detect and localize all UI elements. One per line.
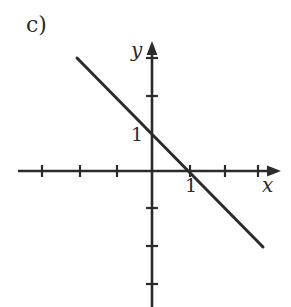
figure-panel: c) y x 1 1	[0, 0, 291, 307]
y-axis-arrowhead	[147, 41, 158, 55]
y-axis-label: y	[131, 40, 142, 60]
x-axis-label: x	[262, 175, 273, 195]
x-axis-tick-label-1: 1	[185, 176, 197, 195]
plotted-line	[77, 58, 263, 247]
y-axis-tick-label-1: 1	[131, 125, 143, 144]
coordinate-plot	[0, 0, 291, 307]
